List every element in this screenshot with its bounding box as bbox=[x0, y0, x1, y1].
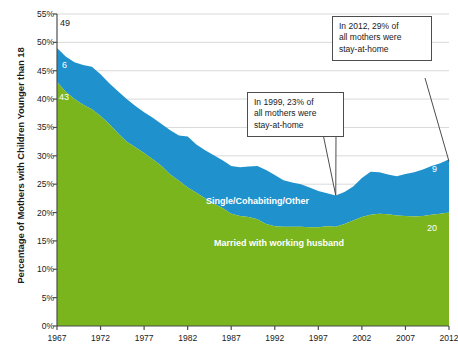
callout-2012-line-3: stay-at-home bbox=[339, 44, 425, 55]
callout-1999-line-2: all mothers were bbox=[254, 108, 337, 119]
endpoint-label-blue-2012: 9 bbox=[432, 164, 437, 174]
callout-2012-line-1: In 2012, 29% of bbox=[339, 21, 425, 32]
endpoint-label-green-2012: 20 bbox=[427, 223, 437, 233]
callout-1999-line-3: stay-at-home bbox=[254, 120, 337, 131]
endpoint-label-blue-1967: 6 bbox=[62, 60, 67, 70]
x-tick-1982: 1982 bbox=[178, 333, 197, 343]
callout-1999-line-1: In 1999, 23% of bbox=[254, 97, 337, 108]
callout-2012-line-2: all mothers were bbox=[339, 32, 425, 43]
x-tick-1992: 1992 bbox=[265, 333, 284, 343]
callout-2012-leader-line bbox=[425, 78, 449, 161]
series-label-single-cohabiting-other: Single/Cohabiting/Other bbox=[206, 196, 309, 206]
x-tick-1977: 1977 bbox=[135, 333, 154, 343]
endpoint-label-total-1967: 49 bbox=[60, 18, 70, 28]
series-label-married-working-husband: Married with working husband bbox=[214, 238, 344, 248]
x-tick-1987: 1987 bbox=[222, 333, 241, 343]
x-tick-1972: 1972 bbox=[91, 333, 110, 343]
x-tick-2002: 2002 bbox=[352, 333, 371, 343]
endpoint-label-green-1967: 43 bbox=[59, 92, 69, 102]
x-tick-2012: 2012 bbox=[440, 333, 458, 343]
callout-1999: In 1999, 23% of all mothers were stay-at… bbox=[247, 92, 344, 137]
x-tick-1967: 1967 bbox=[48, 333, 67, 343]
x-tick-2007: 2007 bbox=[396, 333, 415, 343]
callout-1999-pointer bbox=[323, 134, 336, 196]
x-tick-1997: 1997 bbox=[309, 333, 328, 343]
callout-2012: In 2012, 29% of all mothers were stay-at… bbox=[332, 16, 432, 61]
